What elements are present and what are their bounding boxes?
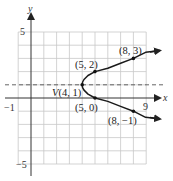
label-5-2: (5, 2) — [75, 59, 98, 71]
point-8-neg1 — [132, 109, 136, 113]
label-vertex: V(4, 1) — [52, 87, 82, 99]
label-8-neg1: (8, −1) — [108, 115, 137, 127]
label-8-3: (8, 3) — [119, 45, 142, 57]
point-5-0 — [93, 96, 97, 100]
point-8-3 — [132, 57, 136, 61]
point-5-2 — [93, 70, 97, 74]
tick-y-neg5: −5 — [16, 159, 27, 170]
y-axis-label: y — [27, 3, 33, 14]
label-5-0: (5, 0) — [75, 102, 98, 114]
x-axis-label: x — [162, 92, 168, 103]
tick-y-5: 5 — [20, 26, 25, 37]
parabola-graph: y x 5 −5 −1 9 V(4, 1) (5, 2) (8, 3) (5, … — [0, 0, 173, 181]
tick-x-neg1: −1 — [4, 102, 15, 113]
tick-x-9: 9 — [143, 101, 148, 112]
